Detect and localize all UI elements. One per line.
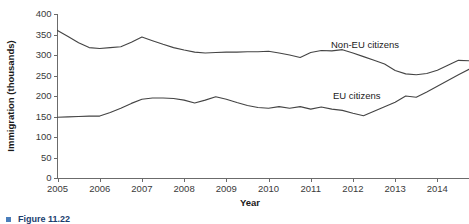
figure-caption: Figure 11.22 bbox=[18, 214, 70, 224]
caption-bullet-icon bbox=[6, 217, 11, 222]
x-tick-label: 2011 bbox=[301, 183, 321, 194]
series-line-eu-citizens bbox=[58, 69, 469, 117]
x-tick-group: 2005200620072008200920102011201220132014 bbox=[47, 178, 448, 194]
immigration-line-chart: 050100150200250300350400 Immigration (th… bbox=[0, 0, 469, 224]
y-tick-label: 0 bbox=[46, 172, 51, 183]
x-tick-label: 2006 bbox=[89, 183, 110, 194]
y-tick-label: 400 bbox=[36, 8, 52, 19]
chart-canvas: 050100150200250300350400 Immigration (th… bbox=[0, 0, 469, 224]
y-tick-label: 100 bbox=[36, 131, 52, 142]
y-tick-label: 300 bbox=[36, 49, 52, 60]
y-tick-group: 050100150200250300350400 bbox=[36, 8, 58, 183]
x-tick-label: 2010 bbox=[258, 183, 279, 194]
figure-caption-strip: Figure 11.22 bbox=[0, 212, 469, 224]
x-tick-label: 2012 bbox=[342, 183, 363, 194]
y-tick-label: 200 bbox=[36, 90, 52, 101]
x-tick-label: 2007 bbox=[131, 183, 152, 194]
series-line-non-eu-citizens bbox=[58, 30, 469, 74]
y-axis-title: Immigration (thousands) bbox=[5, 40, 16, 151]
x-tick-label: 2005 bbox=[47, 183, 68, 194]
y-tick-label: 150 bbox=[36, 111, 52, 122]
y-tick-label: 250 bbox=[36, 70, 52, 81]
y-tick-label: 50 bbox=[41, 152, 52, 163]
y-axis-group: 050100150200250300350400 Immigration (th… bbox=[5, 8, 58, 183]
x-tick-label: 2013 bbox=[385, 183, 406, 194]
series-label-eu-citizens: EU citizens bbox=[333, 90, 381, 101]
x-tick-label: 2009 bbox=[216, 183, 237, 194]
series-annotations-group: Non-EU citizensEU citizens bbox=[331, 39, 399, 101]
series-label-non-eu-citizens: Non-EU citizens bbox=[331, 39, 399, 50]
x-tick-label: 2014 bbox=[427, 183, 448, 194]
x-tick-label: 2008 bbox=[174, 183, 195, 194]
series-lines-group bbox=[58, 30, 469, 117]
y-tick-label: 350 bbox=[36, 29, 52, 40]
x-axis-title: Year bbox=[240, 197, 260, 208]
x-axis-group: 2005200620072008200920102011201220132014… bbox=[47, 178, 469, 208]
